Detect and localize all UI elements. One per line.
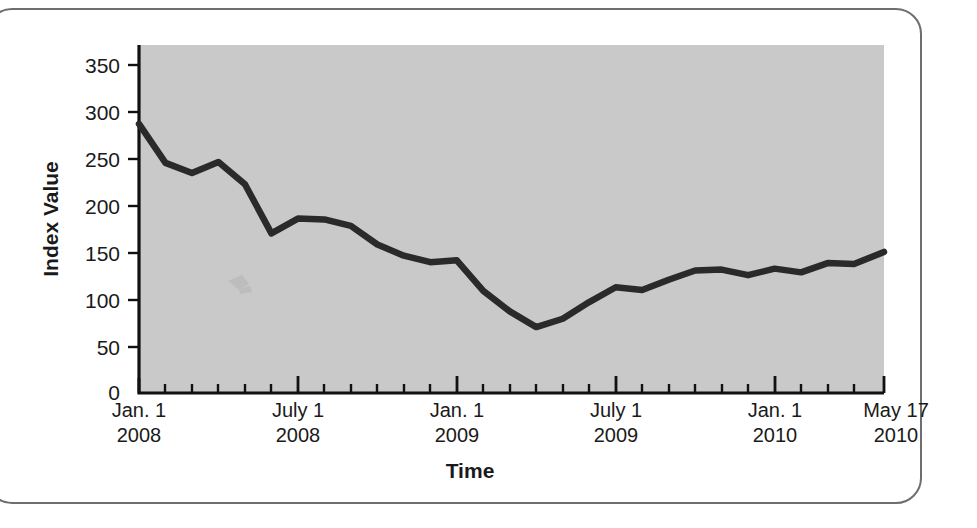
x-axis-title: Time <box>446 459 495 482</box>
y-tick-labels: 350 300 250 200 150 100 50 0 <box>85 54 120 404</box>
x-tick-label-line2: 2008 <box>117 424 162 446</box>
y-tick-label: 350 <box>85 54 120 77</box>
x-tick-label-line1: July 1 <box>272 399 324 421</box>
x-tick-label-line2: 2009 <box>594 424 639 446</box>
y-tick-label: 150 <box>85 242 120 265</box>
chart-svg: 350 300 250 200 150 100 50 0 Index Value <box>0 0 977 528</box>
y-tick-label: 250 <box>85 148 120 171</box>
x-tick-label-line1: Jan. 1 <box>112 399 166 421</box>
x-tick-label-line1: Jan. 1 <box>748 399 802 421</box>
x-tick-label-line2: 2008 <box>276 424 321 446</box>
x-tick-label-line1: July 1 <box>590 399 642 421</box>
x-tick-label-line1: Jan. 1 <box>430 399 484 421</box>
figure-page: 350 300 250 200 150 100 50 0 Index Value <box>0 0 977 528</box>
x-tick-label-line1: May 17 <box>863 399 929 421</box>
y-tick-label: 300 <box>85 101 120 124</box>
y-axis-title: Index Value <box>39 161 62 277</box>
x-tick-labels: Jan. 1 2008 July 1 2008 Jan. 1 2009 July… <box>112 399 929 446</box>
y-tick-marks <box>128 65 139 347</box>
x-tick-label-line2: 2010 <box>753 424 798 446</box>
plot-background <box>139 45 884 393</box>
y-tick-label: 100 <box>85 289 120 312</box>
x-tick-label-line2: 2009 <box>435 424 480 446</box>
x-tick-label-line2: 2010 <box>874 424 919 446</box>
line-chart: 350 300 250 200 150 100 50 0 Index Value <box>0 0 977 528</box>
y-tick-label: 200 <box>85 195 120 218</box>
y-tick-label: 50 <box>97 336 120 359</box>
